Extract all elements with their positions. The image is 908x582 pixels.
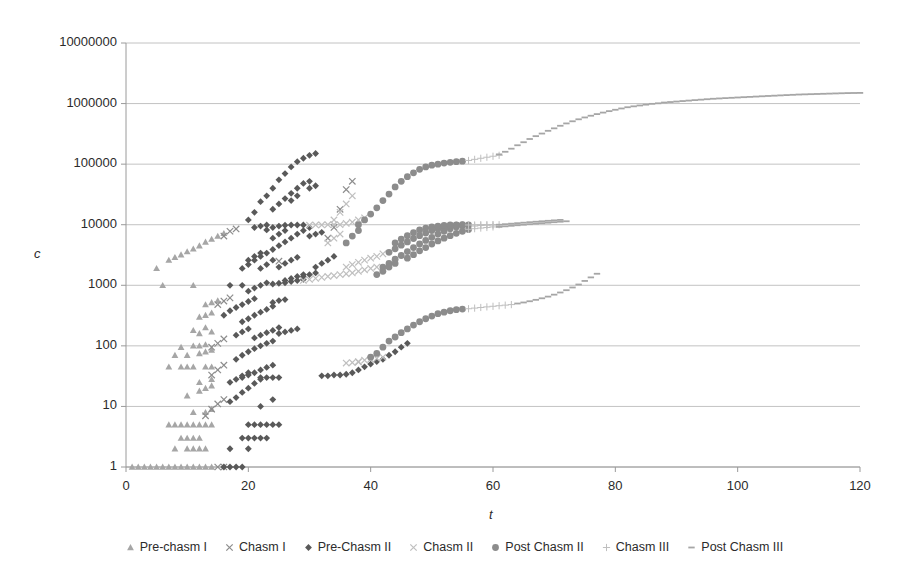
legend-item-pre-chasm-i[interactable]: Pre-chasm I [125,540,207,554]
legend-label: Pre-Chasm II [318,540,392,554]
series-chasm-iii [465,152,515,313]
legend-marker-triangle-icon [125,542,136,553]
x-tick-label: 40 [341,478,401,493]
y-axis-title: c [34,246,41,261]
x-tick-label: 0 [96,478,156,493]
y-tick-label: 1 [110,458,117,473]
x-tick-label: 120 [830,478,890,493]
y-tick-label: 1000 [88,276,117,291]
legend-marker-diamond-icon [303,542,314,553]
x-axis-title: t [489,507,493,522]
y-tick-label: 100000 [74,155,117,170]
legend-marker-cross-icon [224,542,235,553]
legend-label: Chasm I [239,540,286,554]
axes [121,43,860,472]
series-post-chasm-ii [343,158,472,361]
y-tick-label: 10000000 [59,34,117,49]
scatter-plot-canvas [0,0,908,582]
legend-marker-cross-light-icon [408,542,419,553]
legend-label: Chasm III [616,540,670,554]
y-tick-label: 10000 [81,216,117,231]
legend-label: Post Chasm II [505,540,584,554]
gridlines [126,43,860,467]
legend-item-chasm-i[interactable]: Chasm I [224,540,286,554]
x-tick-label: 60 [463,478,523,493]
legend-item-post-chasm-iii[interactable]: Post Chasm III [686,540,783,554]
y-tick-label: 1000000 [66,95,117,110]
x-tick-label: 100 [708,478,768,493]
legend-label: Chasm II [423,540,473,554]
legend-label: Post Chasm III [701,540,783,554]
legend-marker-dash-icon [686,542,697,553]
legend-label: Pre-chasm I [140,540,207,554]
legend-marker-plus-icon [601,542,612,553]
y-tick-label: 10 [103,397,117,412]
chart-page: 110100100010000100000100000010000000 020… [0,0,908,582]
legend-item-chasm-ii[interactable]: Chasm II [408,540,473,554]
x-tick-label: 80 [585,478,645,493]
legend-item-post-chasm-ii[interactable]: Post Chasm II [490,540,584,554]
series-chasm-ii [300,193,386,367]
legend-item-chasm-iii[interactable]: Chasm III [601,540,670,554]
series-pre-chasm-i [129,230,228,470]
series-post-chasm-iii [496,93,863,304]
x-tick-label: 20 [218,478,278,493]
y-tick-label: 100 [95,337,117,352]
legend-item-pre-chasm-ii[interactable]: Pre-Chasm II [303,540,392,554]
legend-marker-circle-icon [490,542,501,553]
chart-legend: Pre-chasm IChasm IPre-Chasm IIChasm IIPo… [0,540,908,554]
